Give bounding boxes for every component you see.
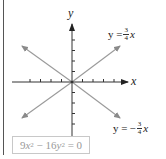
line-neg-slope-upper (22, 46, 72, 82)
equation-box: 9x2 − 16y2 = 0 (12, 136, 90, 154)
pos-line-lhs: y = (108, 29, 122, 40)
line-neg-slope-lower (72, 82, 120, 118)
line-pos-slope-lower (22, 82, 72, 118)
neg-line-var: x (143, 123, 148, 134)
neg-line-lhs: y = (113, 123, 127, 134)
graph-figure: y x y = 3 4 x y = − 3 4 x 9x2 − 16y2 = 0 (0, 0, 166, 159)
y-axis-label: y (68, 7, 73, 19)
pos-line-denominator: 4 (124, 35, 128, 42)
eq-operator: − 16 (34, 139, 57, 151)
pos-line-fraction: 3 4 (123, 27, 129, 42)
line-pos-slope-upper (72, 46, 120, 82)
eq-rhs: = 0 (65, 139, 82, 151)
pos-line-var: x (130, 29, 135, 40)
neg-line-fraction: 3 4 (137, 121, 143, 136)
x-axis-label: x (131, 75, 136, 87)
neg-line-sign: − (129, 123, 135, 134)
neg-line-denominator: 4 (138, 129, 142, 136)
neg-slope-line-label: y = − 3 4 x (113, 121, 148, 136)
pos-slope-line-label: y = 3 4 x (108, 27, 135, 42)
origin-point (71, 81, 74, 84)
